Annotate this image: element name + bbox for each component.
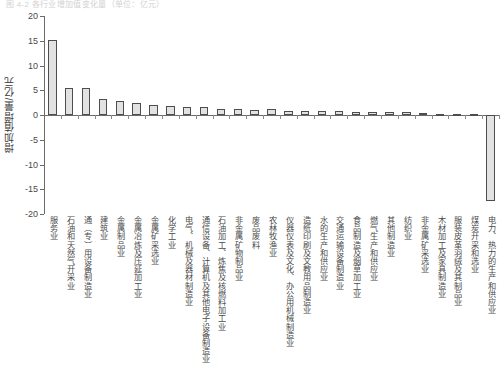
y-axis-title: 增加值增量/亿元	[2, 40, 16, 190]
bar	[65, 88, 73, 115]
x-tick	[162, 115, 163, 119]
bar	[318, 111, 326, 115]
x-axis-label: 农林牧渔业	[266, 216, 277, 257]
bar	[335, 111, 343, 115]
x-tick	[347, 115, 348, 119]
x-tick	[213, 115, 214, 119]
x-tick	[196, 115, 197, 119]
y-tick	[40, 115, 44, 116]
x-tick	[482, 115, 483, 119]
x-tick	[145, 115, 146, 119]
bar	[352, 112, 360, 115]
x-axis-label: 仪器仪表及文化、办公用机械制造业	[283, 216, 294, 347]
y-tick	[40, 165, 44, 166]
y-tick-label: -15	[25, 185, 38, 194]
bar	[486, 115, 494, 201]
y-tick-label: 5	[33, 86, 38, 95]
bar	[385, 112, 393, 115]
bar	[470, 114, 478, 116]
x-tick	[499, 115, 500, 119]
y-tick-label: -10	[25, 160, 38, 169]
bar	[48, 40, 56, 115]
bar	[284, 111, 292, 115]
y-tick	[40, 214, 44, 215]
bar	[132, 103, 140, 115]
bar	[419, 113, 427, 115]
y-tick	[40, 41, 44, 42]
bar	[166, 106, 174, 115]
bar	[436, 114, 444, 116]
x-tick	[398, 115, 399, 119]
x-axis-label: 非金属矿物制品业	[232, 216, 243, 282]
x-tick	[297, 115, 298, 119]
bar	[183, 107, 191, 115]
x-tick	[246, 115, 247, 119]
bar	[368, 112, 376, 115]
x-axis-label: 非金属矿采选业	[418, 216, 429, 273]
y-tick-label: 10	[28, 61, 38, 70]
x-tick	[432, 115, 433, 119]
x-tick	[78, 115, 79, 119]
x-tick	[415, 115, 416, 119]
bar	[82, 88, 90, 115]
chart-figure: 图 4-2 各行业增加值变化量（单位：亿元） 增加值增量/亿元 20151050…	[0, 0, 503, 391]
x-axis-label: 通信设备、计算机及其他电子设备制造业	[199, 216, 210, 364]
x-axis-label: 电气、机械及器材制造业	[182, 216, 193, 306]
x-tick	[381, 115, 382, 119]
bar	[301, 111, 309, 115]
x-tick	[111, 115, 112, 119]
x-axis-label: 煤炭开采和选业	[468, 216, 479, 273]
bar	[99, 99, 107, 115]
x-axis-label: 金属冶炼及压延加工业	[131, 216, 142, 298]
plot-area: 20151050-5-10-15-20	[44, 16, 499, 214]
bar	[149, 105, 157, 115]
x-tick	[179, 115, 180, 119]
x-axis-label: 石油和天然气开采业	[64, 216, 75, 290]
x-axis-label: 化学工业	[165, 216, 176, 249]
bar	[250, 110, 258, 115]
x-tick	[330, 115, 331, 119]
x-axis-label: 建筑业	[97, 216, 108, 241]
y-tick	[40, 189, 44, 190]
x-axis-label: 造纸印刷及文教用品制造业	[300, 216, 311, 314]
bar	[267, 109, 275, 115]
x-axis-label-group: 服务业石油和天然气开采业通（专）用设备制造业建筑业金属制品业金属冶炼及压延加工业…	[44, 216, 503, 391]
x-tick	[95, 115, 96, 119]
x-tick	[128, 115, 129, 119]
x-tick	[229, 115, 230, 119]
y-tick	[40, 140, 44, 141]
bar	[217, 109, 225, 115]
bar	[453, 114, 461, 116]
bar	[116, 101, 124, 115]
x-axis-label: 燃气生产和供应业	[367, 216, 378, 282]
y-tick-label: -5	[30, 135, 38, 144]
y-tick	[40, 66, 44, 67]
x-tick	[314, 115, 315, 119]
y-tick	[40, 90, 44, 91]
x-axis-label: 通（专）用设备制造业	[81, 216, 92, 298]
x-tick	[364, 115, 365, 119]
x-axis-label: 其他制造业	[384, 216, 395, 257]
x-axis-label: 木材加工及家具制造业	[435, 216, 446, 298]
y-tick-label: 20	[28, 12, 38, 21]
x-axis-label: 纺织业	[401, 216, 412, 241]
bar	[234, 109, 242, 115]
x-axis-label: 服装皮革羽绒及其制品业	[451, 216, 462, 306]
x-tick	[448, 115, 449, 119]
y-tick-label: 15	[28, 36, 38, 45]
y-tick	[40, 16, 44, 17]
x-axis-label: 交通运输设备制造业	[333, 216, 344, 290]
x-axis-label: 废品废料	[249, 216, 260, 249]
x-tick	[61, 115, 62, 119]
x-axis-label: 金属矿采选业	[148, 216, 159, 265]
x-tick	[280, 115, 281, 119]
bar	[402, 112, 410, 115]
x-tick	[465, 115, 466, 119]
x-axis-label: 食品制造及烟草加工业	[350, 216, 361, 298]
y-tick-label: -20	[25, 210, 38, 219]
x-axis-label: 服务业	[47, 216, 58, 241]
bar	[200, 107, 208, 115]
x-tick	[263, 115, 264, 119]
x-axis-label: 电力、热力的生产和供应业	[485, 216, 496, 314]
x-axis-label: 水的生产和供应业	[317, 216, 328, 282]
